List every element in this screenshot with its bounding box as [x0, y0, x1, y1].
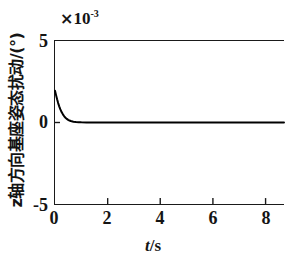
x-axis-title-unit: /s: [150, 236, 161, 255]
multiplier-base: 10: [73, 9, 90, 28]
multiply-sign-icon: ×: [60, 9, 73, 28]
x-tick-marks: [108, 198, 266, 204]
y-axis-multiplier: ×10-3: [60, 8, 99, 29]
x-tick-label-4: 4: [145, 209, 175, 227]
multiplier-exponent: -3: [90, 8, 98, 19]
y-tick-label-middle: 0: [2, 113, 48, 131]
data-series-line: [55, 91, 284, 123]
plot-area: [54, 40, 284, 205]
x-tick-label-8: 8: [251, 209, 281, 227]
chart-figure: z轴方向基座姿态扰动/(°) ×10-3 5 0 -5 0 2 4 6 8 t/…: [0, 0, 306, 268]
x-tick-label-6: 6: [198, 209, 228, 227]
x-tick-label-2: 2: [92, 209, 122, 227]
plot-canvas: [55, 41, 284, 204]
x-tick-label-0: 0: [39, 209, 69, 227]
y-tick-label-top: 5: [2, 32, 48, 50]
x-axis-title: t/s: [0, 236, 306, 256]
